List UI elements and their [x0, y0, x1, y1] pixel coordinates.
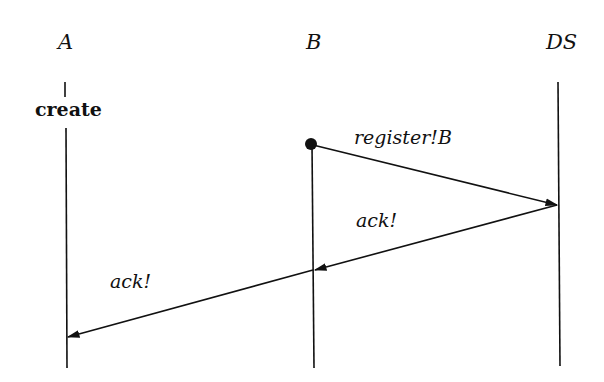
- instance-label-a: A: [58, 30, 73, 54]
- lifeline-b: [312, 144, 314, 368]
- diagram-canvas: [0, 0, 604, 382]
- action-create: create: [35, 98, 102, 120]
- message-label-ack-b-a: ack!: [110, 270, 151, 292]
- message-ack-ds-b-arrow: [315, 205, 557, 270]
- instance-label-ds: DS: [546, 30, 577, 54]
- lifeline-ds: [558, 82, 560, 366]
- instance-label-b: B: [306, 30, 321, 54]
- message-ack-b-a-arrow: [68, 270, 313, 337]
- message-start-dot: [305, 138, 317, 150]
- message-label-ack-ds-b: ack!: [356, 209, 397, 231]
- message-register-arrow: [313, 145, 557, 205]
- sequence-diagram: A B DS create register!B ack! ack!: [0, 0, 604, 382]
- message-label-register: register!B: [354, 126, 452, 148]
- lifeline-a: [66, 128, 67, 368]
